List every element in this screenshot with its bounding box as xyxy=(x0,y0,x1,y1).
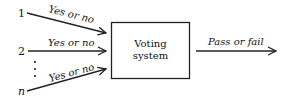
edge-label-1: Yes or no xyxy=(48,3,96,25)
box-label-line1: Voting xyxy=(133,38,167,49)
voting-system-diagram: 1 Yes or no 2 Yes or no n Yes or no Voti… xyxy=(0,0,288,102)
edge-label-2: Yes or no xyxy=(48,37,94,48)
ellipsis-dot xyxy=(34,68,36,70)
ellipsis-dot xyxy=(34,61,36,63)
ellipsis-dot xyxy=(34,75,36,77)
input-label-1: 1 xyxy=(18,7,25,20)
box-label-line2: system xyxy=(133,50,169,61)
output-edge-label: Pass or fail xyxy=(207,36,264,47)
input-label-n: n xyxy=(18,85,25,98)
input-label-2: 2 xyxy=(18,45,25,58)
edge-label-n: Yes or no xyxy=(48,61,96,84)
